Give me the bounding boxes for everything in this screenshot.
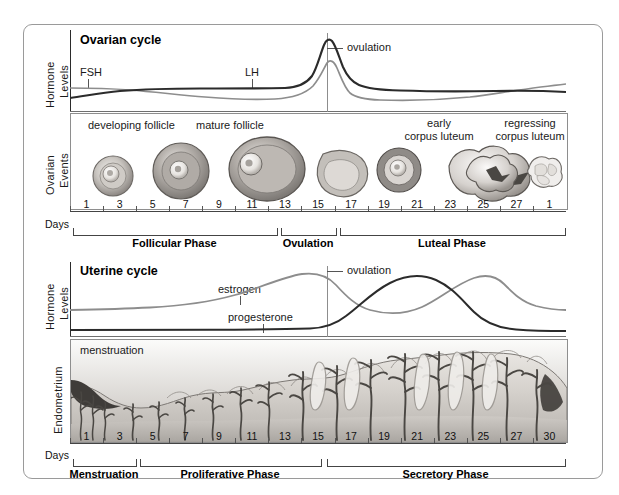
ovarian-tick (301, 206, 302, 211)
ovarian-day-17: 17 (342, 198, 360, 210)
follicle-stage-1 (93, 156, 133, 196)
uterine-tick (202, 438, 203, 443)
ovarian-hormone-axis-label-line2: Levels (58, 65, 70, 98)
ovarian-day-1: 1 (78, 198, 96, 210)
ovarian-day-27: 27 (507, 198, 525, 210)
label-menstruation-phase: Menstruation (64, 468, 144, 480)
endometrium-illustration (71, 340, 567, 442)
uterine-tick (533, 438, 534, 443)
ovarian-day-1: 1 (540, 198, 558, 210)
label-secretory-phase: Secretory Phase (327, 468, 564, 480)
uterine-tick (70, 438, 71, 443)
caption-developing-follicle: developing follicle (88, 119, 175, 131)
uterine-day-15: 15 (309, 430, 327, 442)
uterine-day-17: 17 (342, 430, 360, 442)
uterine-tick (136, 438, 137, 443)
ovarian-day-23: 23 (441, 198, 459, 210)
ovarian-events-label-line1: Ovarian (44, 155, 56, 195)
label-proliferative-phase: Proliferative Phase (140, 468, 320, 480)
ovarian-days-axis-line (70, 211, 566, 212)
ovarian-hormone-axis-label-line1: Hormone (44, 61, 56, 108)
uterine-day-23: 23 (441, 430, 459, 442)
bracket-luteal-phase (340, 228, 566, 236)
caption-regressing-corpus-luteum-line1: regressing (484, 117, 576, 129)
ovarian-day-11: 11 (243, 198, 261, 210)
lh-curve (70, 40, 566, 98)
ovarian-hormone-curves (70, 30, 566, 112)
label-luteal-phase: Luteal Phase (340, 237, 564, 249)
uterine-tick (169, 438, 170, 443)
uterine-hormone-axis-label-line2: Levels (58, 287, 70, 320)
uterine-tick (368, 438, 369, 443)
ovarian-tick (335, 206, 336, 211)
uterine-day-1: 1 (78, 430, 96, 442)
menstruation-caption: menstruation (80, 344, 144, 356)
bracket-proliferative-phase (140, 459, 322, 467)
endometrium-axis-label: Endometrium (52, 366, 64, 434)
uterine-day-7: 7 (177, 430, 195, 442)
ovarian-tick (235, 206, 236, 211)
uterine-tick (235, 438, 236, 443)
ovarian-day-5: 5 (144, 198, 162, 210)
ovarian-tick (136, 206, 137, 211)
ovarian-tick (268, 206, 269, 211)
released-ovum (377, 148, 421, 192)
uterine-day-19: 19 (375, 430, 393, 442)
uterine-day-30: 30 (540, 430, 558, 442)
uterine-day-5: 5 (144, 430, 162, 442)
uterine-tick (434, 438, 435, 443)
uterine-tick (103, 438, 104, 443)
uterine-day-13: 13 (276, 430, 294, 442)
ovarian-tick (70, 206, 71, 211)
label-ovulation-phase: Ovulation (276, 237, 340, 249)
uterine-tick (401, 438, 402, 443)
follicle-stage-3-mature (229, 137, 305, 201)
ovarian-tick (500, 206, 501, 211)
caption-early-corpus-luteum-line1: early (396, 117, 482, 129)
ovarian-day-15: 15 (309, 198, 327, 210)
uterine-days-axis-line (70, 443, 566, 444)
follicle-stage-2 (153, 143, 209, 199)
caption-mature-follicle: mature follicle (196, 119, 264, 131)
caption-regressing-corpus-luteum-line2: corpus luteum (484, 130, 576, 142)
uterine-days-caption: Days (45, 449, 69, 461)
ovarian-tick (401, 206, 402, 211)
ovarian-tick (202, 206, 203, 211)
uterine-day-25: 25 (474, 430, 492, 442)
bracket-ovulation-phase (281, 228, 337, 236)
ovarian-day-7: 7 (177, 198, 195, 210)
ovarian-days-caption: Days (45, 218, 69, 230)
uterine-hormone-curves (70, 262, 566, 337)
follicle-stage-4-ruptured (317, 150, 367, 196)
uterine-day-9: 9 (210, 430, 228, 442)
figure-root: Hormone Levels Ovarian cycle FSH LH ovul… (0, 0, 619, 495)
ovarian-day-21: 21 (408, 198, 426, 210)
caption-early-corpus-luteum-line2: corpus luteum (396, 130, 482, 142)
fsh-curve (70, 61, 566, 100)
uterine-day-11: 11 (243, 430, 261, 442)
ovarian-events-label-line2: Events (58, 153, 70, 188)
ovarian-day-3: 3 (111, 198, 129, 210)
ovarian-tick (434, 206, 435, 211)
ovarian-tick (467, 206, 468, 211)
bracket-secretory-phase (327, 459, 566, 467)
bracket-follicular-phase (73, 228, 278, 236)
uterine-tick (500, 438, 501, 443)
uterine-tick (268, 438, 269, 443)
ovarian-day-25: 25 (474, 198, 492, 210)
ovarian-tick (169, 206, 170, 211)
ovarian-tick (533, 206, 534, 211)
uterine-tick (335, 438, 336, 443)
uterine-day-21: 21 (408, 430, 426, 442)
ovarian-tick (103, 206, 104, 211)
estrogen-curve (70, 273, 566, 313)
label-follicular-phase: Follicular Phase (73, 237, 276, 249)
uterine-hormone-axis-label-line1: Hormone (44, 283, 56, 330)
progesterone-curve (70, 276, 566, 331)
regressing-corpus-luteum-illustration-2 (528, 157, 562, 187)
ovarian-day-9: 9 (210, 198, 228, 210)
ovarian-day-13: 13 (276, 198, 294, 210)
endometrium-box (70, 339, 568, 443)
uterine-day-3: 3 (111, 430, 129, 442)
bracket-menstruation-phase (73, 459, 137, 467)
